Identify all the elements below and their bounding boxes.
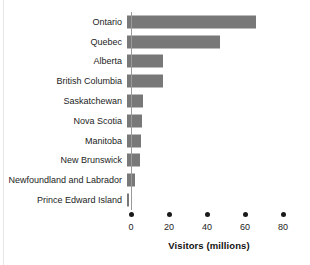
tick-label: 40 [187, 222, 227, 233]
bar-row: Quebec [0, 32, 310, 52]
bar [127, 134, 141, 147]
bar-track [127, 52, 310, 72]
x-axis-tick-labels: 020406080 [0, 222, 310, 235]
bar-track [127, 91, 310, 111]
tick-label: 80 [263, 222, 303, 233]
category-label: Prince Edward Island [0, 195, 127, 205]
bar-track [127, 71, 310, 91]
bar-row: New Brunswick [0, 151, 310, 171]
bar-track [127, 190, 310, 210]
tick-dot-marker [167, 212, 172, 217]
category-label: Saskatchewan [0, 96, 127, 106]
bar-rows: OntarioQuebecAlbertaBritish ColumbiaSask… [0, 12, 310, 210]
bar [127, 154, 140, 167]
plot-area: OntarioQuebecAlbertaBritish ColumbiaSask… [0, 12, 310, 210]
x-axis-title: Visitors (millions) [131, 240, 287, 251]
bar [127, 35, 220, 48]
bar [127, 55, 163, 68]
category-label: Alberta [0, 56, 127, 66]
bar-row: Ontario [0, 12, 310, 32]
bar-row: British Columbia [0, 71, 310, 91]
category-label: Nova Scotia [0, 116, 127, 126]
bar-track [127, 111, 310, 131]
bar-row: Manitoba [0, 131, 310, 151]
category-label: Manitoba [0, 136, 127, 146]
category-label: Quebec [0, 37, 127, 47]
tick-dot-marker [129, 212, 134, 217]
tick-dot-marker [281, 212, 286, 217]
bar-row: Alberta [0, 52, 310, 72]
x-axis-tick-markers [0, 212, 310, 221]
bar-track [127, 32, 310, 52]
bar [127, 114, 142, 127]
bar-track [127, 170, 310, 190]
category-label: British Columbia [0, 76, 127, 86]
bar-row: Saskatchewan [0, 91, 310, 111]
value-axis-spine [131, 12, 132, 210]
category-label: Newfoundland and Labrador [0, 175, 127, 185]
bar-chart-figure: OntarioQuebecAlbertaBritish ColumbiaSask… [0, 0, 310, 265]
tick-label: 0 [111, 222, 151, 233]
bar-track [127, 131, 310, 151]
tick-dot-marker [205, 212, 210, 217]
bar [127, 194, 129, 207]
bar [127, 15, 256, 28]
bar-row: Newfoundland and Labrador [0, 170, 310, 190]
category-label: New Brunswick [0, 155, 127, 165]
category-label: Ontario [0, 17, 127, 27]
tick-label: 60 [225, 222, 265, 233]
tick-label: 20 [149, 222, 189, 233]
tick-dot-marker [243, 212, 248, 217]
bar-row: Prince Edward Island [0, 190, 310, 210]
bar [127, 95, 143, 108]
bar-track [127, 151, 310, 171]
bar-row: Nova Scotia [0, 111, 310, 131]
bar-track [127, 12, 310, 32]
bar [127, 75, 163, 88]
chart-title [0, 0, 310, 10]
